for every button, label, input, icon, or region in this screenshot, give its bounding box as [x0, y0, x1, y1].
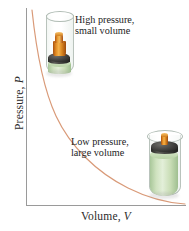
x-axis-line [26, 205, 186, 206]
annotation-low-pressure: Low pressure, large volume [71, 136, 129, 159]
piston-plug-top [161, 133, 168, 137]
piston-high-pressure-illustration [44, 11, 76, 79]
y-axis-label-text: Pressure, [13, 86, 25, 130]
annotation-low-pressure-line2: large volume [71, 147, 129, 158]
annotation-high-pressure-line2: small volume [75, 25, 134, 36]
y-axis-label: Pressure, P [13, 43, 25, 163]
pv-diagram-figure: Pressure, P Volume, V High pressure, sma… [0, 0, 189, 231]
x-axis-label-text: Volume, [81, 210, 121, 222]
glass-cylinder-rim [46, 11, 74, 22]
x-axis-label: Volume, V [26, 210, 186, 222]
piston-plug-top [55, 32, 63, 36]
gas-volume-large [150, 154, 178, 196]
piston-low-pressure-illustration [146, 130, 184, 200]
cylinder-base-shadow [149, 192, 179, 199]
annotation-low-pressure-line1: Low pressure, [71, 136, 129, 147]
x-axis-symbol: V [124, 210, 131, 222]
y-axis-symbol: P [13, 76, 25, 83]
annotation-high-pressure: High pressure, small volume [75, 14, 134, 37]
y-axis-line [26, 8, 27, 206]
annotation-high-pressure-line1: High pressure, [75, 14, 134, 25]
piston-plug [53, 41, 66, 56]
cylinder-base-shadow [46, 70, 72, 77]
